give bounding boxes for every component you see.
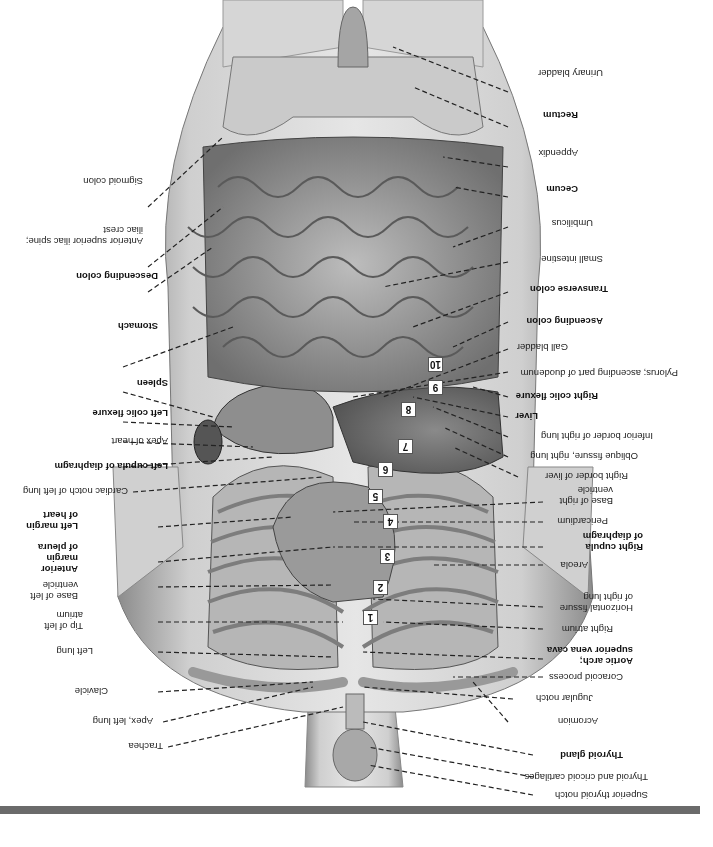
label-descending-colon: Descending colon <box>76 271 158 282</box>
label-anterior-superior-iliac-spine: Anterior superior iliac spine; <box>26 236 143 247</box>
rib-number-9: 9 <box>428 380 443 395</box>
label-thyroid-cricoid-cartilages: Thyroid and cricoid cartilages <box>524 772 648 783</box>
label-right-cupula-line2: of diaphragm <box>583 531 643 542</box>
rib-number-3: 3 <box>380 549 395 564</box>
label-horizontal-fissure: Horizontal fissure <box>560 603 633 614</box>
label-horizontal-fissure-line2: of right lung <box>583 592 633 603</box>
rib-number-8: 8 <box>401 402 416 417</box>
label-coracoid-process: Coracoid process <box>549 672 623 683</box>
spleen <box>194 420 222 464</box>
label-pericardium: Pericardium <box>557 516 608 527</box>
label-anterior-margin-pleura-line2: margin <box>46 553 78 564</box>
label-umbilicus: Umbilicus <box>552 218 593 229</box>
label-areola: Areola <box>561 560 588 571</box>
label-thyroid-gland: Thyroid gland <box>560 750 623 761</box>
label-apex-left-lung: Apex, left lung <box>93 716 153 727</box>
label-tip-left-atrium-line2: atrium <box>57 610 83 621</box>
rib-number-10: 10 <box>428 357 443 372</box>
label-base-left-ventricle-line2: ventricle <box>43 580 78 591</box>
label-oblique-fissure: Oblique fissure, right lung <box>530 451 638 462</box>
label-left-margin-heart: Left margin <box>26 521 78 532</box>
label-inferior-border-right-lung: Inferior border of right lung <box>541 431 653 442</box>
rib-number-4: 4 <box>383 514 398 529</box>
label-acromion: Acromion <box>558 716 598 727</box>
rib-number-7: 7 <box>398 439 413 454</box>
liver <box>333 387 503 473</box>
label-base-left-ventricle: Base of left <box>30 591 78 602</box>
label-appendix: Appendix <box>538 148 578 159</box>
label-trachea: Trachea <box>129 741 164 752</box>
label-stomach: Stomach <box>118 321 158 332</box>
label-rectum: Rectum <box>543 110 578 121</box>
label-transverse-colon: Transverse colon <box>530 284 608 295</box>
label-cecum: Cecum <box>546 184 578 195</box>
label-spleen: Spleen <box>137 378 168 389</box>
label-clavicle: Clavicle <box>75 686 108 697</box>
label-gall-bladder: Gall bladder <box>517 342 568 353</box>
label-tip-left-atrium: Tip of left <box>44 621 83 632</box>
label-base-right-ventricle-line2: ventricle <box>578 485 613 496</box>
label-iliac-crest: iliac crest <box>103 225 143 236</box>
label-jugular-notch: Jugular notch <box>536 693 593 704</box>
label-left-lung: Left lung <box>57 646 93 657</box>
rib-number-5: 5 <box>368 489 383 504</box>
label-pylorus: Pylorus; ascending part of duodenum <box>521 368 678 379</box>
label-left-colic-flexure: Left colic flexure <box>93 408 169 419</box>
label-cardiac-notch: Cardiac notch of left lung <box>23 486 128 497</box>
label-anterior-margin-pleura: Anterior <box>41 564 78 575</box>
label-right-atrium: Right atrium <box>562 624 613 635</box>
label-sigmoid-colon: Sigmoid colon <box>83 176 143 187</box>
label-apex-heart: Apex of heart <box>111 436 168 447</box>
label-liver: Liver <box>515 411 538 422</box>
rotated-figure: 1 2 3 4 5 6 7 8 9 10 Superior thyroid no… <box>0 0 713 847</box>
label-ascending-colon: Ascending colon <box>526 316 603 327</box>
figure-stage: 1 2 3 4 5 6 7 8 9 10 Superior thyroid no… <box>0 0 713 847</box>
label-superior-vena-cava: superior vena cava <box>547 645 633 656</box>
label-left-cupula: Left cupula of diaphragm <box>55 461 168 472</box>
label-base-right-ventricle: Base of right <box>560 496 613 507</box>
label-small-intestine: Small intestine <box>541 254 603 265</box>
larynx <box>333 729 377 781</box>
trachea <box>346 694 364 729</box>
rib-number-6: 6 <box>378 462 393 477</box>
label-right-border-liver: Right border of liver <box>545 471 628 482</box>
label-anterior-margin-pleura-line3: of pleura <box>38 542 78 553</box>
label-urinary-bladder: Urinary bladder <box>538 68 603 79</box>
label-superior-thyroid-notch: Superior thyroid notch <box>555 790 648 801</box>
rib-number-1: 1 <box>363 610 378 625</box>
label-right-colic-flexure: Right colic flexure <box>516 391 598 402</box>
label-aortic-arch: Aortic arch; <box>580 656 633 667</box>
rib-number-2: 2 <box>373 580 388 595</box>
label-left-margin-heart-line2: of heart <box>43 510 78 521</box>
label-right-cupula: Right cupula <box>585 542 643 553</box>
